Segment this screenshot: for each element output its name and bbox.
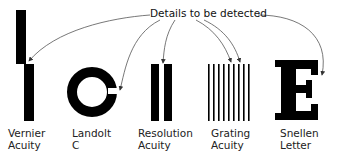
vernier-stimulus — [16, 10, 34, 121]
label-line: Snellen — [280, 127, 319, 139]
label-line: Landolt — [72, 127, 111, 139]
label-line: Acuity — [138, 139, 193, 151]
label-snellen: Snellen Letter — [280, 127, 319, 151]
resolution-stimulus — [151, 64, 172, 121]
diagram-title: Details to be detected — [150, 7, 267, 19]
label-line: Resolution — [138, 127, 193, 139]
label-landolt: Landolt C — [72, 127, 111, 151]
landolt-c-stimulus — [72, 72, 118, 112]
label-line: Acuity — [211, 139, 250, 151]
snellen-e-stimulus — [275, 60, 318, 120]
label-vernier: Vernier Acuity — [8, 127, 45, 151]
label-line: Letter — [280, 139, 319, 151]
label-line: Grating — [211, 127, 250, 139]
label-line: Vernier — [8, 127, 45, 139]
label-resolution: Resolution Acuity — [138, 127, 193, 151]
label-grating: Grating Acuity — [211, 127, 250, 151]
label-line: Acuity — [8, 139, 45, 151]
grating-stimulus — [208, 64, 250, 121]
label-line: C — [72, 139, 111, 151]
